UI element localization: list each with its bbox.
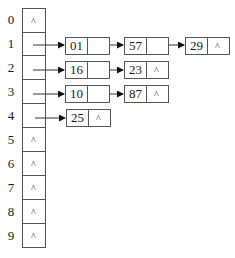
node-next-pointer	[147, 38, 168, 54]
null-pointer-icon: ^	[154, 90, 159, 100]
list-node: 16	[65, 61, 110, 79]
node-value: 01	[66, 38, 88, 54]
null-pointer-icon: ^	[215, 42, 220, 52]
list-node: 23 ^	[124, 61, 169, 79]
node-next-pointer: ^	[147, 86, 168, 102]
list-node: 01	[65, 37, 110, 55]
node-next-pointer: ^	[147, 62, 168, 78]
node-value: 57	[125, 38, 147, 54]
node-next-pointer	[88, 62, 109, 78]
null-pointer-icon: ^	[154, 66, 159, 76]
list-node: 87 ^	[124, 85, 169, 103]
list-node: 25 ^	[66, 109, 111, 127]
null-pointer-icon: ^	[96, 114, 101, 124]
node-value: 10	[66, 86, 88, 102]
node-next-pointer: ^	[208, 38, 229, 54]
node-next-pointer: ^	[89, 110, 110, 126]
node-value: 25	[67, 110, 89, 126]
list-node: 10	[65, 85, 110, 103]
node-value: 16	[66, 62, 88, 78]
node-value: 23	[125, 62, 147, 78]
node-next-pointer	[88, 38, 109, 54]
list-node: 57	[124, 37, 169, 55]
list-node: 29 ^	[185, 37, 230, 55]
node-value: 87	[125, 86, 147, 102]
node-next-pointer	[88, 86, 109, 102]
node-value: 29	[186, 38, 208, 54]
